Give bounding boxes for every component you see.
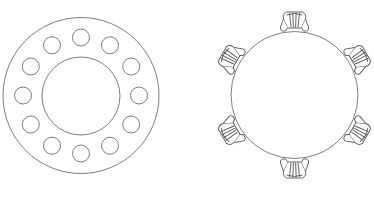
chair-icon [215, 41, 246, 75]
seat-circle [22, 116, 39, 133]
seat-circle [102, 37, 119, 54]
seat-circle [44, 137, 61, 154]
round-table-diagram [215, 12, 373, 178]
chair-icon [280, 159, 309, 178]
chair-icon [343, 115, 374, 149]
ring-table-diagram [3, 18, 159, 174]
seat-group [15, 29, 148, 162]
chair-group [215, 12, 373, 178]
chair-icon [343, 41, 374, 75]
seat-circle [123, 58, 140, 75]
floor-plan-canvas [0, 0, 374, 206]
seat-circle [102, 137, 119, 154]
outer-table-ring [3, 18, 159, 174]
chair-icon [280, 12, 309, 31]
seat-circle [73, 145, 90, 162]
seat-circle [131, 87, 148, 104]
round-table [231, 32, 358, 159]
seat-circle [123, 116, 140, 133]
inner-table-ring [42, 57, 120, 135]
seat-circle [44, 37, 61, 54]
seat-circle [73, 29, 90, 46]
seat-circle [15, 87, 32, 104]
chair-icon [215, 115, 246, 149]
seat-circle [22, 58, 39, 75]
